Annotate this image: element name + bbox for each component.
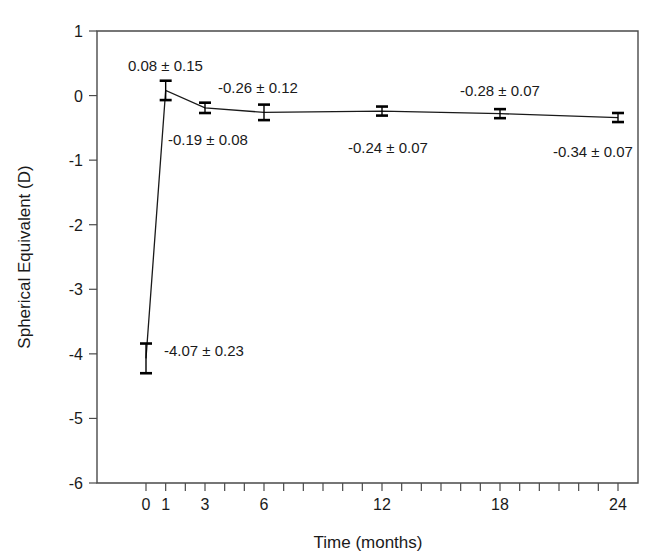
data-point-label: 0.08 ± 0.15 — [128, 57, 203, 74]
y-tick-label: -6 — [69, 475, 83, 492]
y-tick-label: 1 — [74, 23, 83, 40]
y-tick-label: -1 — [69, 152, 83, 169]
chart-figure: 10-1-2-3-4-5-6 0136121824 0.08 ± 0.15-4.… — [0, 0, 671, 560]
x-axis-title: Time (months) — [314, 533, 423, 552]
data-point-label: -4.07 ± 0.23 — [164, 342, 244, 359]
y-axis-title: Spherical Equivalent (D) — [15, 165, 34, 348]
y-tick-label: -2 — [69, 217, 83, 234]
data-point-label: -0.26 ± 0.12 — [218, 79, 298, 96]
chart-plot-area: 10-1-2-3-4-5-6 0136121824 0.08 ± 0.15-4.… — [0, 0, 671, 560]
x-tick-label: 3 — [201, 496, 210, 513]
data-point-label: -0.28 ± 0.07 — [460, 82, 540, 99]
x-tick-label: 18 — [491, 496, 509, 513]
chart-background — [0, 0, 671, 560]
data-point-label: -0.19 ± 0.08 — [168, 131, 248, 148]
y-tick-label: -5 — [69, 410, 83, 427]
y-tick-label: 0 — [74, 88, 83, 105]
x-tick-label: 24 — [609, 496, 627, 513]
y-tick-label: -3 — [69, 281, 83, 298]
x-tick-label: 1 — [161, 496, 170, 513]
x-tick-label: 6 — [260, 496, 269, 513]
x-tick-label: 12 — [373, 496, 391, 513]
data-point-label: -0.34 ± 0.07 — [553, 143, 633, 160]
y-tick-label: -4 — [69, 346, 83, 363]
data-point-label: -0.24 ± 0.07 — [348, 139, 428, 156]
x-tick-label: 0 — [142, 496, 151, 513]
